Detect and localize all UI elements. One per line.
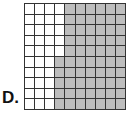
shaded-cell	[106, 57, 116, 68]
shaded-cell	[55, 57, 65, 68]
shaded-cell	[76, 57, 86, 68]
unshaded-cell	[35, 68, 45, 79]
unshaded-cell	[35, 4, 45, 15]
unshaded-cell	[55, 25, 65, 36]
shaded-cell	[116, 99, 126, 110]
unshaded-cell	[25, 46, 35, 57]
shaded-cell	[86, 89, 96, 100]
shaded-cell	[76, 68, 86, 79]
shaded-cell	[116, 89, 126, 100]
shaded-cell	[76, 36, 86, 47]
unshaded-cell	[45, 36, 55, 47]
shaded-cell	[106, 36, 116, 47]
shaded-cell	[116, 78, 126, 89]
shaded-cell	[86, 57, 96, 68]
unshaded-cell	[35, 36, 45, 47]
unshaded-cell	[45, 78, 55, 89]
option-label: D.	[2, 88, 19, 108]
shaded-cell	[76, 4, 86, 15]
unshaded-cell	[45, 68, 55, 79]
unshaded-cell	[45, 99, 55, 110]
shaded-cell	[96, 99, 106, 110]
shaded-cell	[106, 46, 116, 57]
shaded-cell	[76, 15, 86, 26]
unshaded-cell	[25, 15, 35, 26]
unshaded-cell	[35, 25, 45, 36]
shaded-cell	[65, 89, 75, 100]
shaded-cell	[65, 36, 75, 47]
shaded-cell	[116, 4, 126, 15]
unshaded-cell	[45, 89, 55, 100]
unshaded-cell	[55, 36, 65, 47]
shaded-cell	[65, 25, 75, 36]
shaded-cell	[76, 78, 86, 89]
hundred-grid	[24, 3, 126, 110]
unshaded-cell	[25, 89, 35, 100]
shaded-cell	[65, 15, 75, 26]
shaded-cell	[76, 89, 86, 100]
shaded-cell	[76, 46, 86, 57]
unshaded-cell	[25, 36, 35, 47]
shaded-cell	[65, 68, 75, 79]
shaded-cell	[96, 78, 106, 89]
unshaded-cell	[35, 99, 45, 110]
unshaded-cell	[45, 57, 55, 68]
shaded-cell	[116, 46, 126, 57]
shaded-cell	[86, 25, 96, 36]
unshaded-cell	[55, 46, 65, 57]
unshaded-cell	[55, 15, 65, 26]
shaded-cell	[106, 25, 116, 36]
shaded-cell	[116, 15, 126, 26]
shaded-cell	[96, 89, 106, 100]
shaded-cell	[86, 99, 96, 110]
shaded-cell	[96, 46, 106, 57]
unshaded-cell	[45, 4, 55, 15]
shaded-cell	[55, 68, 65, 79]
unshaded-cell	[35, 78, 45, 89]
shaded-cell	[96, 57, 106, 68]
unshaded-cell	[35, 89, 45, 100]
shaded-cell	[86, 15, 96, 26]
shaded-cell	[116, 57, 126, 68]
unshaded-cell	[35, 46, 45, 57]
unshaded-cell	[35, 15, 45, 26]
unshaded-cell	[25, 99, 35, 110]
shaded-cell	[65, 4, 75, 15]
unshaded-cell	[45, 25, 55, 36]
shaded-cell	[86, 46, 96, 57]
shaded-cell	[106, 78, 116, 89]
shaded-cell	[65, 99, 75, 110]
shaded-cell	[55, 89, 65, 100]
unshaded-cell	[25, 25, 35, 36]
shaded-cell	[86, 36, 96, 47]
unshaded-cell	[25, 4, 35, 15]
shaded-cell	[116, 68, 126, 79]
unshaded-cell	[45, 15, 55, 26]
unshaded-cell	[35, 57, 45, 68]
shaded-cell	[76, 99, 86, 110]
shaded-cell	[86, 78, 96, 89]
shaded-cell	[65, 46, 75, 57]
shaded-cell	[65, 57, 75, 68]
shaded-cell	[76, 25, 86, 36]
shaded-cell	[65, 78, 75, 89]
shaded-cell	[116, 25, 126, 36]
unshaded-cell	[25, 57, 35, 68]
shaded-cell	[96, 68, 106, 79]
shaded-cell	[96, 15, 106, 26]
shaded-cell	[106, 99, 116, 110]
shaded-cell	[55, 99, 65, 110]
shaded-cell	[116, 36, 126, 47]
shaded-cell	[106, 68, 116, 79]
shaded-cell	[86, 68, 96, 79]
shaded-cell	[106, 15, 116, 26]
shaded-cell	[106, 89, 116, 100]
unshaded-cell	[45, 46, 55, 57]
shaded-cell	[106, 4, 116, 15]
shaded-cell	[86, 4, 96, 15]
shaded-cell	[96, 36, 106, 47]
shaded-cell	[96, 4, 106, 15]
unshaded-cell	[55, 4, 65, 15]
shaded-cell	[55, 78, 65, 89]
unshaded-cell	[25, 78, 35, 89]
